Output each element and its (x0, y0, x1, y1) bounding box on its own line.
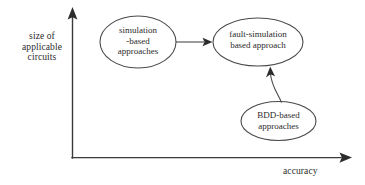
edge-bdd-to-fault (266, 67, 282, 103)
edge-simulation-to-fault (176, 38, 213, 46)
y-axis-label: size of applicable circuits (6, 31, 78, 63)
y-axis (68, 7, 78, 158)
node-fault-simulation-based-label: fault-simulation based approach (213, 29, 303, 50)
x-axis (72, 152, 352, 162)
node-bdd-based-line-2: approaches (241, 121, 316, 132)
y-axis-label-line-1: size of (6, 31, 78, 42)
node-simulation-based-label: simulation -based approaches (100, 25, 176, 57)
diagram-canvas: size of applicable circuits accuracy sim… (0, 0, 365, 185)
node-simulation-based-line-2: -based (100, 36, 176, 47)
x-axis-label: accuracy (283, 166, 343, 177)
node-fault-simulation-based-line-2: based approach (213, 40, 303, 51)
node-simulation-based-line-3: approaches (100, 46, 176, 57)
node-fault-simulation-based-line-1: fault-simulation (213, 29, 303, 40)
edge-bdd-to-fault-curve (271, 74, 282, 103)
y-axis-label-line-3: circuits (6, 52, 78, 63)
node-bdd-based-line-1: BDD-based (241, 110, 316, 121)
node-simulation-based-line-1: simulation (100, 25, 176, 36)
y-axis-label-line-2: applicable (6, 42, 78, 53)
node-bdd-based-label: BDD-based approaches (241, 110, 316, 131)
diagram-svg (0, 0, 365, 185)
